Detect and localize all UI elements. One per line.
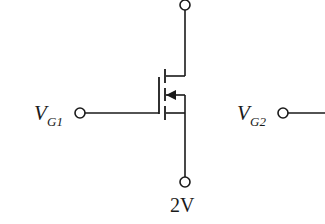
source-terminal	[180, 177, 190, 187]
vg2-label-sub: G2	[250, 114, 266, 129]
vg1-label-sub: G1	[47, 114, 63, 129]
vg2-terminal	[278, 108, 288, 118]
body-arrow-icon	[166, 90, 176, 100]
drain-terminal	[180, 0, 190, 10]
source-voltage-label: 2V	[170, 194, 195, 216]
circuit-diagram: V G1 V G2 2V	[0, 0, 325, 224]
vg1-terminal	[75, 108, 85, 118]
